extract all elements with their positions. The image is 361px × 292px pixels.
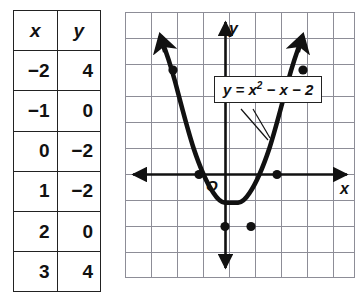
equation-label: y = x2 − x − 2 <box>214 76 322 103</box>
grid-lines <box>125 12 355 278</box>
value-table-body: x y −2 4 −1 0 0 −2 1 −2 2 0 3 4 <box>14 11 101 292</box>
origin-label: O <box>206 177 218 194</box>
x-axis-label: x <box>340 180 349 198</box>
table-row: −2 4 <box>14 51 101 91</box>
axes <box>133 22 347 268</box>
table-row: 0 −2 <box>14 131 101 171</box>
equation-suffix: − x − 2 <box>262 81 313 98</box>
cell-x: 2 <box>14 211 58 251</box>
point--1-0 <box>194 170 203 179</box>
point-2-0 <box>272 170 281 179</box>
value-table: x y −2 4 −1 0 0 −2 1 −2 2 0 3 4 <box>13 10 101 292</box>
cell-x: −1 <box>14 91 58 131</box>
cell-x: −2 <box>14 51 58 91</box>
table-header-row: x y <box>14 11 101 51</box>
point--2-4 <box>168 65 177 74</box>
cell-y: 4 <box>57 252 101 292</box>
cell-y: −2 <box>57 131 101 171</box>
point-0--2 <box>220 222 229 231</box>
point-3-4 <box>298 65 307 74</box>
table-row: 2 0 <box>14 211 101 251</box>
cell-y: 0 <box>57 91 101 131</box>
parabola-graph: y = x2 − x − 2 y x O <box>125 12 355 278</box>
table-row: 1 −2 <box>14 171 101 211</box>
point-1--2 <box>246 222 255 231</box>
cell-x: 1 <box>14 171 58 211</box>
cell-y: 4 <box>57 51 101 91</box>
column-header-y: y <box>57 11 101 51</box>
cell-y: 0 <box>57 211 101 251</box>
table-row: −1 0 <box>14 91 101 131</box>
table-row: 3 4 <box>14 252 101 292</box>
equation-prefix: y = x <box>223 81 257 98</box>
graph-canvas <box>125 12 355 278</box>
cell-x: 3 <box>14 252 58 292</box>
cell-y: −2 <box>57 171 101 211</box>
cell-x: 0 <box>14 131 58 171</box>
column-header-x: x <box>14 11 58 51</box>
y-axis-label: y <box>229 20 238 38</box>
